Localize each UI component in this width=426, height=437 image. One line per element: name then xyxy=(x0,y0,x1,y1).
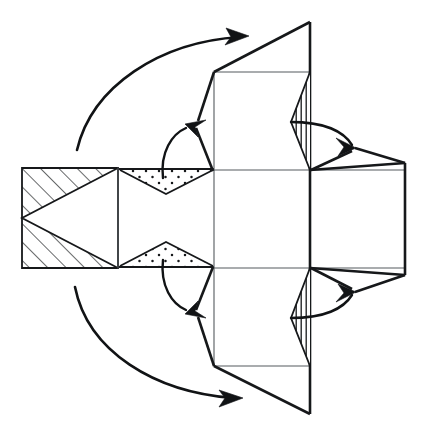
lower-flap-tail xyxy=(198,317,214,366)
upper-flap-tail-lower xyxy=(196,128,213,171)
upper-long-fold-arrowhead xyxy=(225,28,249,45)
panel-faces xyxy=(118,72,405,366)
lower-flap-tail-upper xyxy=(196,267,213,310)
lower-right-tail xyxy=(355,275,405,292)
net-diagram-svg xyxy=(0,0,426,437)
figure-root xyxy=(0,0,426,437)
lower-long-fold-arrowhead xyxy=(219,390,243,407)
face-right-panel xyxy=(310,163,405,275)
upper-right-tail xyxy=(355,148,405,163)
lower-long-fold-arrow xyxy=(75,287,233,398)
left-hatched-panel xyxy=(22,168,118,268)
lower-short-fold-arrowhead xyxy=(185,301,206,318)
upper-short-fold-arrowhead xyxy=(185,120,206,137)
face-center-middle xyxy=(214,170,310,268)
upper-flap-tail xyxy=(198,72,214,121)
bottom-flap-edge xyxy=(214,366,310,414)
